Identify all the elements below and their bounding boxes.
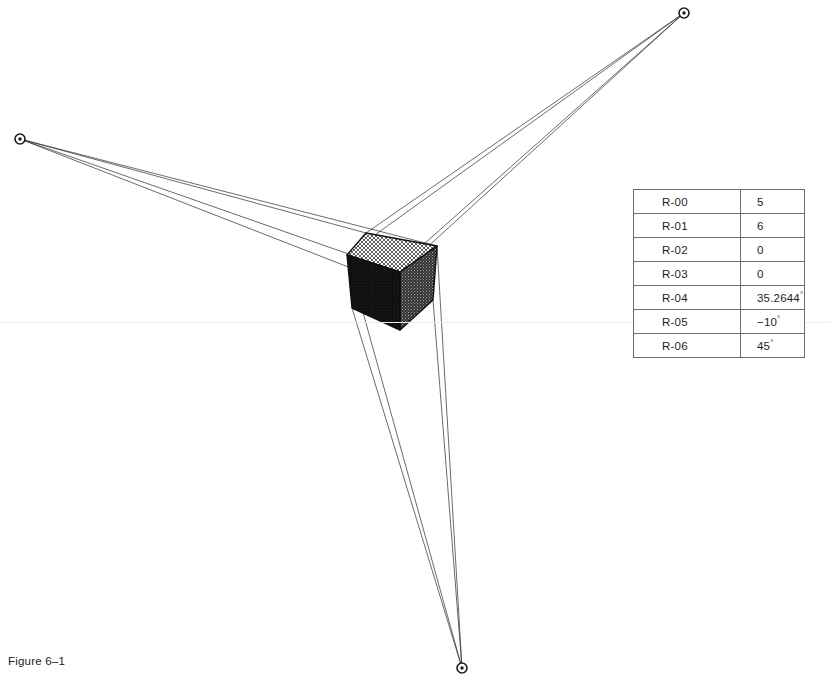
register-value-number: 5	[757, 196, 764, 208]
parameter-table: R-005R-016R-020R-030R-0435.2644°R-05−10°…	[633, 189, 805, 358]
perspective-figure: R-005R-016R-020R-030R-0435.2644°R-05−10°…	[0, 0, 830, 695]
vanishing-point-bottom	[457, 663, 467, 673]
register-value: 35.2644°	[741, 286, 805, 310]
register-value: 0	[741, 238, 805, 262]
table-row: R-016	[634, 214, 805, 238]
register-value: 0	[741, 262, 805, 286]
vanishing-point-markers	[15, 8, 689, 673]
register-name: R-00	[634, 190, 741, 214]
table-row: R-05−10°	[634, 310, 805, 334]
register-value-number: 0	[757, 244, 764, 256]
degree-symbol: °	[770, 338, 773, 347]
vanishing-point-left	[15, 134, 25, 144]
register-value-number: 45	[757, 340, 770, 352]
register-value-number: 0	[757, 268, 764, 280]
table-row: R-020	[634, 238, 805, 262]
register-value: 5	[741, 190, 805, 214]
vanishing-point-right	[679, 8, 689, 18]
register-name: R-01	[634, 214, 741, 238]
register-value-number: −10	[757, 316, 777, 328]
register-value-number: 35.2644	[757, 292, 800, 304]
register-name: R-05	[634, 310, 741, 334]
table-row: R-005	[634, 190, 805, 214]
register-name: R-06	[634, 334, 741, 358]
degree-symbol: °	[777, 314, 780, 323]
register-name: R-04	[634, 286, 741, 310]
figure-caption: Figure 6–1	[8, 655, 65, 667]
table-row: R-0435.2644°	[634, 286, 805, 310]
register-name: R-03	[634, 262, 741, 286]
table-row: R-030	[634, 262, 805, 286]
register-value: 45°	[741, 334, 805, 358]
table-row: R-0645°	[634, 334, 805, 358]
register-value-number: 6	[757, 220, 764, 232]
register-name: R-02	[634, 238, 741, 262]
register-value: 6	[741, 214, 805, 238]
register-value: −10°	[741, 310, 805, 334]
degree-symbol: °	[800, 290, 803, 299]
shaded-cube	[347, 233, 437, 330]
